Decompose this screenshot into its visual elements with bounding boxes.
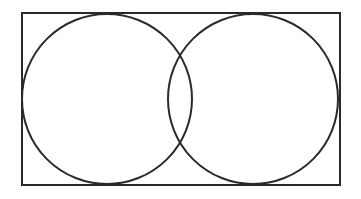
- left-set-circle: [22, 14, 192, 184]
- universal-set-rectangle: [22, 13, 340, 185]
- right-set-circle: [168, 14, 338, 184]
- venn-diagram: [0, 0, 361, 199]
